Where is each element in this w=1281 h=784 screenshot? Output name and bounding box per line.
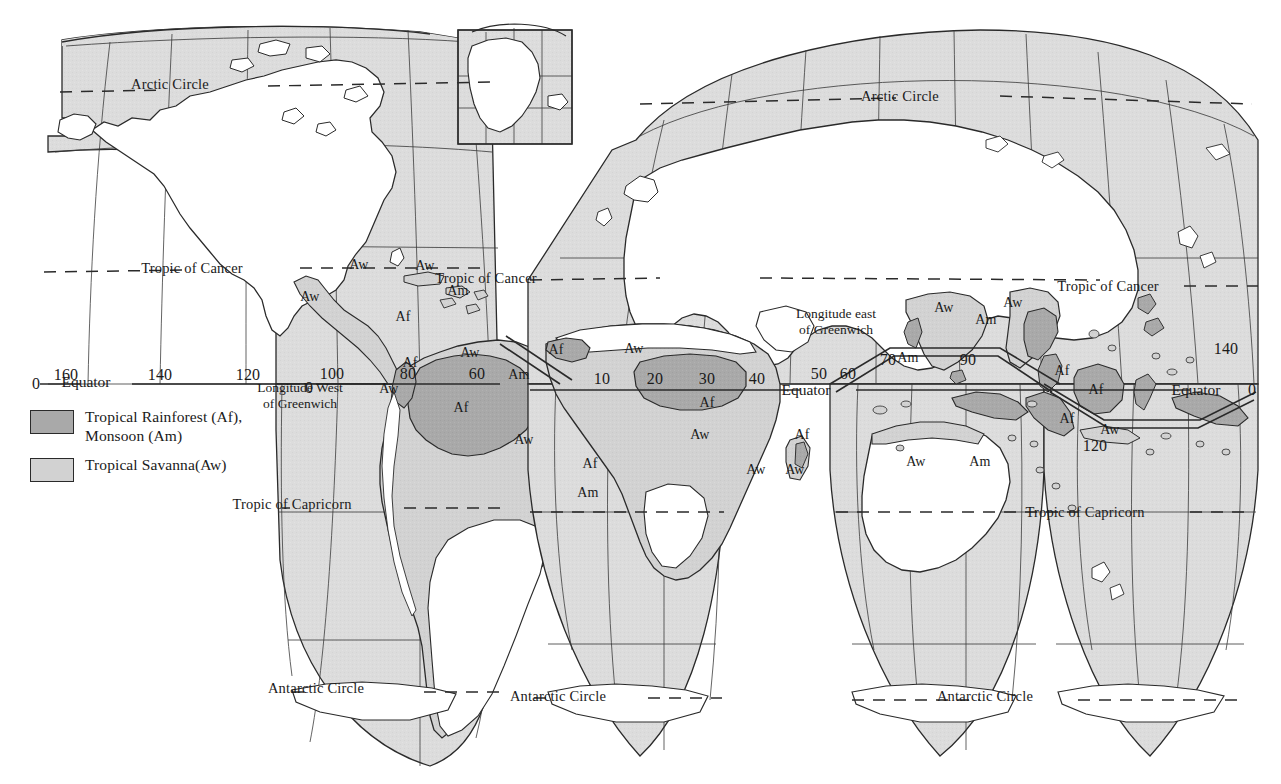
greenland-inset xyxy=(458,24,572,144)
map-legend: Tropical Rainforest (Af), Monsoon (Am) T… xyxy=(30,408,280,492)
legend-swatch-savanna xyxy=(30,458,74,482)
world-map: Tropical Rainforest (Af), Monsoon (Am) T… xyxy=(0,0,1281,784)
legend-label-rainforest: Tropical Rainforest (Af), Monsoon (Am) xyxy=(85,408,242,446)
legend-item-rainforest: Tropical Rainforest (Af), Monsoon (Am) xyxy=(30,408,280,446)
map-graphic xyxy=(0,0,1281,784)
legend-item-savanna: Tropical Savanna(Aw) xyxy=(30,456,280,482)
legend-swatch-rainforest xyxy=(30,410,74,434)
legend-label-savanna: Tropical Savanna(Aw) xyxy=(85,456,227,475)
